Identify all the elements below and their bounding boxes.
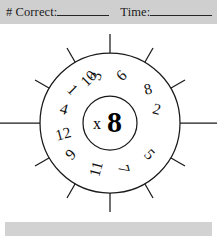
wheel-svg: 3 6 8 2 5 7 11 9 12 4 1 10 x 8	[0, 24, 217, 214]
multiply-operator: x	[93, 115, 101, 132]
worksheet-footer	[5, 222, 212, 236]
correct-label: # Correct:	[6, 5, 57, 20]
time-field[interactable]: Time:	[120, 4, 212, 20]
multiplication-wheel: 3 6 8 2 5 7 11 9 12 4 1 10 x 8	[0, 24, 217, 214]
multiplier-value: 8	[107, 105, 122, 138]
correct-answer-blank[interactable]	[57, 4, 109, 16]
time-answer-blank[interactable]	[150, 4, 212, 16]
correct-field[interactable]: # Correct:	[6, 4, 109, 20]
worksheet-page: # Correct: Time:	[0, 0, 217, 236]
time-label: Time:	[120, 5, 150, 20]
worksheet-header: # Correct: Time:	[0, 0, 217, 24]
